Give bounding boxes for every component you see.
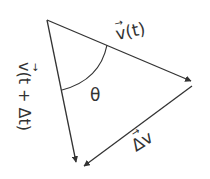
vector-v-t-dt-label: v(t + Δt) <box>15 62 34 131</box>
angle-theta-label: θ <box>90 85 100 105</box>
vector-diagram: θ v(t) → v(t + Δt) → Δv → <box>0 0 210 179</box>
vector-v-t-arrow-accent: → <box>113 17 123 30</box>
angle-arc <box>62 45 107 90</box>
vector-v-t-dt-arrow-accent: → <box>30 63 41 71</box>
vector-v-t-dt-arrow <box>47 20 76 162</box>
